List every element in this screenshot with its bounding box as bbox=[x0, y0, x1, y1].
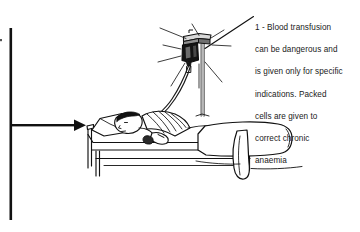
left-edge-tick-mark bbox=[0, 39, 2, 41]
line-art-canvas bbox=[0, 0, 360, 232]
illustration-figure: 1 - Blood transfusion can be dangerous a… bbox=[0, 0, 360, 232]
